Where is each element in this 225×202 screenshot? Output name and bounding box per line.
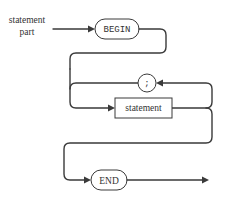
statement-label: statement <box>125 103 162 113</box>
arrow-icon <box>156 80 163 87</box>
arrow-icon <box>202 177 209 184</box>
loop-left-rail <box>70 69 110 108</box>
arrow-icon <box>88 26 95 33</box>
end-label: END <box>99 176 119 186</box>
loop-to-end-line <box>64 108 212 180</box>
begin-terminal: BEGIN <box>95 19 139 39</box>
statement-nonterminal: statement <box>115 98 172 118</box>
entry-label-line1: statement <box>9 15 46 25</box>
end-terminal: END <box>91 170 127 190</box>
arrow-icon <box>84 177 91 184</box>
loop-top-left <box>70 83 138 89</box>
semicolon-terminal: ; <box>138 74 156 92</box>
arrow-icon <box>108 105 115 112</box>
semicolon-label: ; <box>144 79 149 89</box>
begin-label: BEGIN <box>103 25 130 35</box>
entry-label-line2: part <box>20 27 35 37</box>
syntax-diagram: statement part BEGIN ; statement END <box>0 0 225 202</box>
